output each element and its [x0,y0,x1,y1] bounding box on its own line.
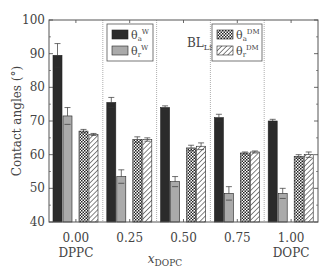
bar [250,152,259,222]
bar [143,140,152,222]
bar [89,134,98,222]
bar [214,118,223,222]
bar [268,121,277,222]
y-tick-label: 100 [22,13,45,27]
bar [197,146,206,222]
bar [79,131,88,222]
bar [161,108,170,222]
y-tick-label: 90 [30,47,45,61]
x-tick-label: 0.00 [63,231,90,245]
bar-chart: 0.00DPPC0.250.500.751.00DOPC405060708090… [0,0,332,269]
y-tick-label: 50 [30,181,45,195]
y-tick-label: 40 [30,215,45,229]
bar [304,155,313,222]
bar [63,116,72,222]
bar [53,55,62,222]
x-tick-label: 0.25 [116,231,143,245]
bar [171,182,180,222]
legend-swatch [112,30,128,39]
y-tick-label: 60 [30,148,45,162]
bar [133,140,142,222]
y-tick-label: 80 [30,80,45,94]
x-sublabel: DOPC [273,246,310,260]
legend-swatch [217,46,233,55]
y-axis-label: Contact angles (°) [10,66,24,176]
bar [187,148,196,222]
legend-swatch [112,46,128,55]
x-tick-label: 1.00 [278,231,305,245]
x-tick-label: 0.75 [224,231,251,245]
bar [240,153,249,222]
x-tick-label: 0.50 [170,231,197,245]
x-axis-label: xDOPC [148,252,182,268]
bar [294,156,303,222]
legend-water: θaWθrW [107,24,153,61]
bar [224,193,233,222]
bar [278,193,287,222]
legend-swatch [217,30,233,39]
bar [107,102,116,222]
y-tick-label: 70 [30,114,45,128]
x-sublabel: DPPC [58,246,93,260]
legend-dm: θaDMθrDM [212,24,262,61]
